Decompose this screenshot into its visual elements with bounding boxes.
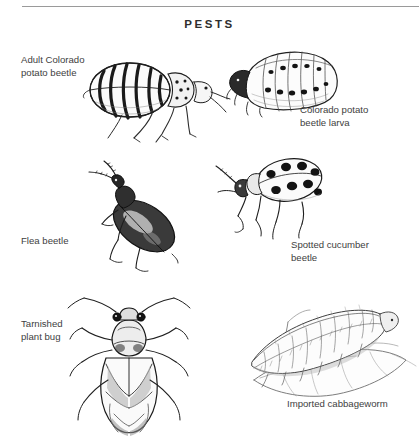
pests-page: PESTS [0,0,419,445]
caption-tarnished-plant-bug: Tarnished plant bug [21,318,131,343]
page-title: PESTS [0,18,419,30]
caption-imported-cabbageworm: Imported cabbageworm [287,398,419,411]
caption-spotted-cucumber-beetle: Spotted cucumber beetle [291,239,416,264]
caterpillar-on-leaf-illustration [252,288,419,403]
caption-flea-beetle: Flea beetle [21,235,136,248]
caption-adult-colorado-potato-beetle: Adult Colorado potato beetle [21,54,136,79]
header-divider-rule [22,6,419,7]
caption-colorado-potato-beetle-larva: Colorado potato beetle larva [300,104,415,129]
spotted-cucumber-beetle-illustration [214,150,334,245]
dark-flea-beetle-illustration [86,160,196,275]
